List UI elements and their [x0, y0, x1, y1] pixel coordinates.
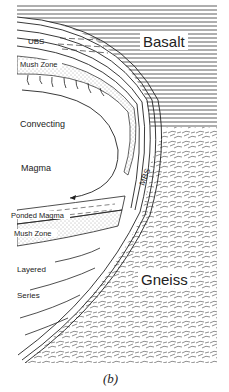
label-basalt: Basalt	[143, 33, 186, 50]
magma-chamber-diagram: Basalt UBS Mush Zone Convecting Magma MB…	[0, 0, 229, 392]
label-layered: Layered	[17, 265, 46, 274]
label-ponded-magma: Ponded Magma	[11, 211, 65, 220]
label-mush-zone-bottom: Mush Zone	[14, 229, 52, 238]
label-gneiss: Gneiss	[141, 271, 188, 288]
label-ubs: UBS	[28, 37, 44, 46]
label-convecting: Convecting	[20, 119, 65, 129]
label-series: Series	[17, 291, 40, 300]
label-magma: Magma	[21, 163, 51, 173]
label-mush-zone-top: Mush Zone	[20, 60, 58, 69]
figure-caption: (b)	[103, 371, 118, 386]
